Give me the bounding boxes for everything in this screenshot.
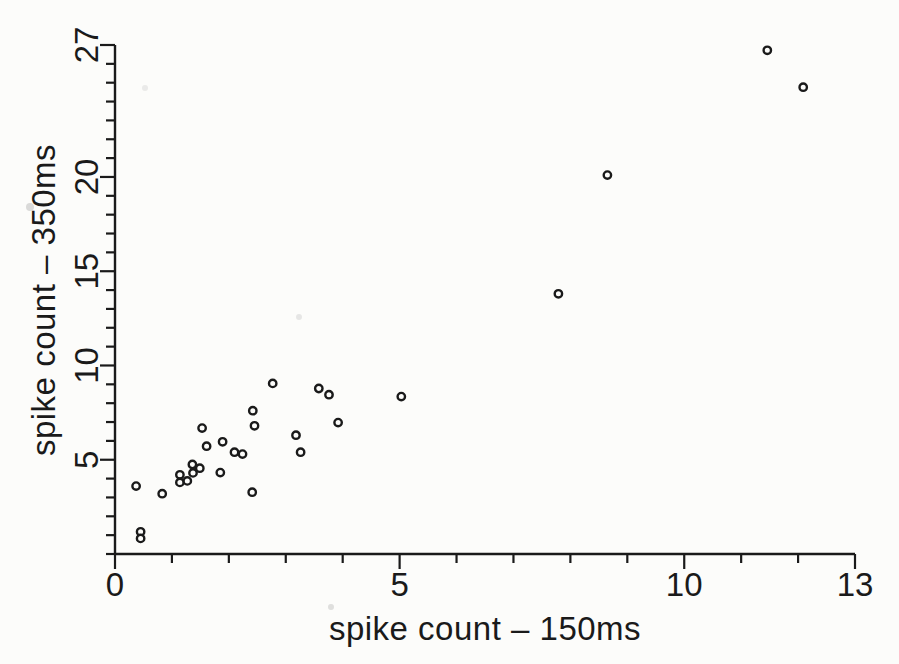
data-point bbox=[203, 443, 210, 450]
data-points bbox=[132, 47, 807, 543]
data-point bbox=[251, 422, 258, 429]
data-point bbox=[189, 461, 196, 468]
data-point bbox=[800, 84, 807, 91]
data-point bbox=[176, 471, 183, 478]
x-tick-label: 5 bbox=[390, 566, 408, 603]
y-tick-label: 15 bbox=[68, 253, 105, 290]
data-point bbox=[196, 465, 203, 472]
x-axis-title: spike count – 150ms bbox=[329, 610, 641, 647]
data-point bbox=[217, 469, 224, 476]
x-tick-label: 10 bbox=[666, 566, 703, 603]
data-point bbox=[219, 438, 226, 445]
y-tick-label: 10 bbox=[68, 347, 105, 384]
data-point bbox=[249, 407, 256, 414]
y-tick-label: 20 bbox=[68, 159, 105, 196]
data-point bbox=[184, 477, 191, 484]
data-point bbox=[137, 535, 144, 542]
x-tick-label: 13 bbox=[837, 566, 874, 603]
data-point bbox=[315, 385, 322, 392]
data-point bbox=[231, 449, 238, 456]
data-point bbox=[176, 479, 183, 486]
scan-speck bbox=[142, 85, 148, 91]
x-tick-label: 0 bbox=[106, 566, 124, 603]
data-point bbox=[159, 490, 166, 497]
data-point bbox=[604, 171, 611, 178]
data-point bbox=[292, 432, 299, 439]
data-point bbox=[555, 290, 562, 297]
data-point bbox=[249, 489, 256, 496]
y-axis-title: spike count – 350ms bbox=[25, 144, 62, 456]
data-point bbox=[269, 380, 276, 387]
axes bbox=[100, 45, 855, 569]
scatter-chart: 051013510152027 spike count – 150ms spik… bbox=[0, 0, 899, 664]
scan-speck bbox=[296, 314, 302, 320]
data-point bbox=[764, 47, 771, 54]
data-point bbox=[198, 424, 205, 431]
scanned-scatter-figure: 051013510152027 spike count – 150ms spik… bbox=[0, 0, 899, 664]
data-point bbox=[398, 393, 405, 400]
y-tick-label: 27 bbox=[68, 27, 105, 64]
tick-labels: 051013510152027 bbox=[68, 27, 873, 603]
data-point bbox=[132, 482, 139, 489]
data-point bbox=[334, 419, 341, 426]
data-point bbox=[325, 391, 332, 398]
data-point bbox=[239, 450, 246, 457]
data-point bbox=[297, 449, 304, 456]
y-tick-label: 5 bbox=[68, 451, 105, 469]
